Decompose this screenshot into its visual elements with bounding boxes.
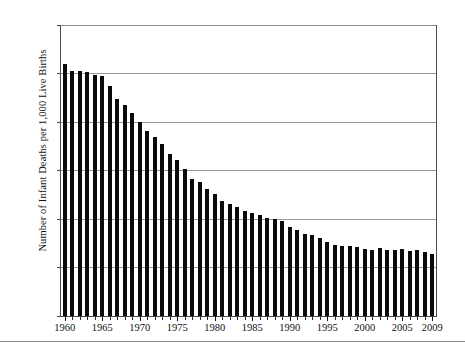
bar bbox=[78, 71, 82, 316]
x-tick-mark bbox=[350, 316, 351, 320]
bar bbox=[198, 182, 202, 316]
bar bbox=[100, 76, 104, 316]
bar bbox=[85, 72, 89, 316]
bar bbox=[258, 215, 262, 316]
x-tick-mark-major bbox=[290, 316, 291, 321]
bar bbox=[145, 131, 149, 316]
x-tick-mark-major bbox=[102, 316, 103, 321]
bar bbox=[393, 250, 397, 316]
x-tick-mark bbox=[275, 316, 276, 320]
x-tick-mark bbox=[357, 316, 358, 320]
x-tick-label: 1990 bbox=[270, 322, 310, 333]
x-tick-mark bbox=[110, 316, 111, 320]
bar bbox=[423, 252, 427, 316]
x-tick-mark bbox=[380, 316, 381, 320]
x-tick-mark bbox=[320, 316, 321, 320]
x-tick-mark bbox=[155, 316, 156, 320]
y-axis-title: Number of Infant Deaths per 1,000 Live B… bbox=[37, 31, 48, 271]
x-tick-mark bbox=[222, 316, 223, 320]
x-tick-mark bbox=[230, 316, 231, 320]
bar bbox=[415, 250, 419, 316]
bar bbox=[228, 204, 232, 316]
bar bbox=[70, 71, 74, 316]
x-tick-mark bbox=[192, 316, 193, 320]
bar bbox=[333, 245, 337, 316]
x-tick-mark bbox=[297, 316, 298, 320]
x-tick-label: 1980 bbox=[195, 322, 235, 333]
bar bbox=[220, 201, 224, 316]
x-tick-mark bbox=[342, 316, 343, 320]
bar bbox=[385, 250, 389, 316]
x-tick-mark bbox=[372, 316, 373, 320]
bar bbox=[265, 218, 269, 316]
bar bbox=[175, 160, 179, 316]
bar bbox=[153, 137, 157, 316]
bar bbox=[318, 238, 322, 316]
x-tick-mark-major bbox=[327, 316, 328, 321]
x-tick-label: 1975 bbox=[157, 322, 197, 333]
bar bbox=[93, 75, 97, 316]
x-tick-mark bbox=[125, 316, 126, 320]
x-tick-mark bbox=[282, 316, 283, 320]
bar bbox=[213, 194, 217, 316]
x-tick-mark bbox=[425, 316, 426, 320]
bar bbox=[408, 251, 412, 316]
x-tick-mark bbox=[80, 316, 81, 320]
x-tick-mark bbox=[410, 316, 411, 320]
x-tick-label: 2000 bbox=[345, 322, 385, 333]
x-tick-mark-major bbox=[140, 316, 141, 321]
plot-area: 051015202530 196019651970197519801985199… bbox=[60, 25, 437, 317]
bar bbox=[355, 247, 359, 316]
bar bbox=[340, 246, 344, 316]
x-tick-mark bbox=[95, 316, 96, 320]
footer-rule bbox=[0, 341, 465, 342]
bar bbox=[115, 99, 119, 316]
x-tick-label: 1970 bbox=[120, 322, 160, 333]
bar bbox=[63, 64, 67, 316]
bar bbox=[243, 211, 247, 316]
bar bbox=[273, 219, 277, 316]
x-tick-mark bbox=[72, 316, 73, 320]
x-tick-label: 1985 bbox=[232, 322, 272, 333]
x-tick-mark bbox=[200, 316, 201, 320]
bar bbox=[205, 189, 209, 316]
infant-mortality-bar-chart: Number of Infant Deaths per 1,000 Live B… bbox=[0, 0, 465, 357]
bar bbox=[183, 169, 187, 316]
bar bbox=[235, 207, 239, 316]
x-tick-mark bbox=[305, 316, 306, 320]
x-tick-label: 1960 bbox=[45, 322, 85, 333]
x-tick-mark bbox=[87, 316, 88, 320]
x-tick-mark-major bbox=[65, 316, 66, 321]
x-tick-mark bbox=[312, 316, 313, 320]
x-tick-mark bbox=[387, 316, 388, 320]
x-tick-mark bbox=[395, 316, 396, 320]
bar bbox=[130, 113, 134, 316]
bar bbox=[108, 86, 112, 316]
x-tick-mark bbox=[260, 316, 261, 320]
bar bbox=[138, 122, 142, 316]
bar bbox=[250, 213, 254, 316]
bar bbox=[400, 249, 404, 316]
x-tick-label: 2009 bbox=[412, 322, 452, 333]
bar bbox=[123, 105, 127, 316]
bar bbox=[430, 254, 434, 316]
x-tick-mark bbox=[185, 316, 186, 320]
bar bbox=[280, 221, 284, 316]
bar bbox=[378, 248, 382, 316]
bar bbox=[288, 227, 292, 316]
bar bbox=[160, 144, 164, 316]
x-tick-mark-major bbox=[432, 316, 433, 321]
x-tick-mark bbox=[237, 316, 238, 320]
x-tick-mark-major bbox=[215, 316, 216, 321]
bar bbox=[370, 250, 374, 316]
x-tick-label: 1995 bbox=[307, 322, 347, 333]
x-tick-mark-major bbox=[365, 316, 366, 321]
x-tick-mark bbox=[335, 316, 336, 320]
x-tick-mark-major bbox=[402, 316, 403, 321]
bar-series bbox=[61, 25, 436, 316]
bar bbox=[295, 230, 299, 316]
x-tick-mark bbox=[417, 316, 418, 320]
x-tick-mark bbox=[245, 316, 246, 320]
x-tick-mark-major bbox=[252, 316, 253, 321]
bar bbox=[168, 154, 172, 316]
